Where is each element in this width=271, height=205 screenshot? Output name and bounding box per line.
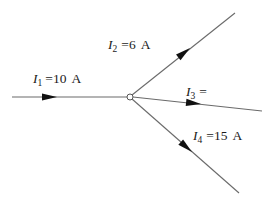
label-i4-value: 15 xyxy=(214,128,228,143)
label-i2: I2=6A xyxy=(107,37,151,54)
label-i3: I3= xyxy=(185,84,207,101)
branch-wires xyxy=(12,13,262,193)
label-i1-value: 10 xyxy=(53,71,67,86)
label-i2-unit: A xyxy=(141,37,151,52)
label-i4-unit: A xyxy=(232,128,242,143)
label-i3-equals: = xyxy=(199,84,207,99)
label-i4-subscript: 4 xyxy=(198,135,203,145)
arrowhead-i1-icon xyxy=(42,93,57,100)
label-i1-subscript: 1 xyxy=(38,78,43,88)
junction-diagram: I1=10A I2=6A I3= I4=15A xyxy=(0,0,271,205)
label-i4: I4=15A xyxy=(192,128,242,145)
label-i2-subscript: 2 xyxy=(113,44,118,54)
label-i2-value: 6 xyxy=(129,37,136,52)
label-i1-unit: A xyxy=(71,71,81,86)
label-i2-equals: = xyxy=(121,37,129,52)
label-i3-subscript: 3 xyxy=(191,91,196,101)
label-i1-equals: = xyxy=(45,71,53,86)
junction-node xyxy=(127,94,133,100)
label-i4-equals: = xyxy=(206,128,214,143)
label-i1: I1=10A xyxy=(32,71,81,88)
